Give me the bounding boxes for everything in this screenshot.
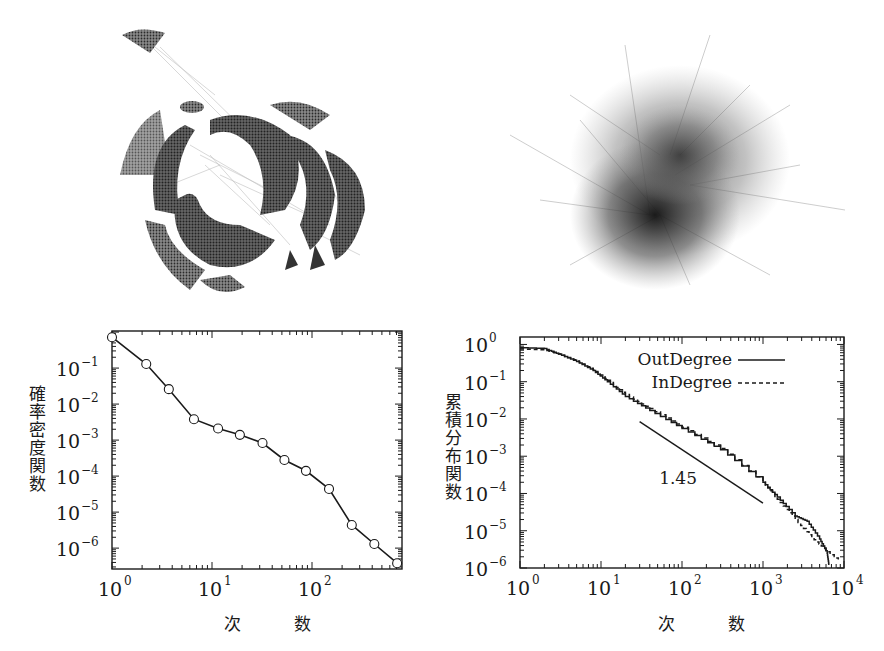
data-point-marker: [108, 333, 117, 342]
x-tick-exponent: 2: [694, 573, 702, 587]
x-tick-label: 10: [98, 578, 122, 600]
data-point-marker: [214, 424, 223, 433]
y-tick-exponent: −4: [489, 480, 507, 494]
data-point-marker: [325, 484, 334, 493]
plot-frame: [112, 331, 402, 569]
left-chart-xlabel: 次 数: [224, 610, 329, 635]
x-tick-label: 10: [587, 577, 611, 599]
y-tick-label: 10: [464, 446, 488, 468]
x-tick-exponent: 3: [775, 573, 783, 587]
network-graph-left: [110, 25, 400, 300]
x-tick-label: 10: [298, 578, 322, 600]
data-point-marker: [142, 359, 151, 368]
y-tick-exponent: −1: [489, 369, 507, 383]
data-point-marker: [258, 439, 267, 448]
x-tick-label: 10: [830, 577, 854, 599]
network-graph-right: [510, 25, 850, 300]
x-tick-exponent: 4: [856, 573, 864, 587]
x-tick-label: 10: [506, 577, 530, 599]
y-tick-label: 10: [464, 409, 488, 431]
slope-annotation: 1.45: [659, 468, 697, 488]
data-point-marker: [164, 385, 173, 394]
y-tick-label: 10: [464, 334, 488, 356]
y-tick-label: 10: [56, 466, 80, 488]
y-tick-exponent: 0: [489, 331, 497, 345]
data-point-marker: [280, 456, 289, 465]
pdf-chart: 10010110210−110−210−310−410−510−6: [40, 320, 420, 600]
right-chart-xlabel: 次 数: [658, 610, 763, 635]
y-tick-label: 10: [56, 358, 80, 380]
y-tick-label: 10: [464, 558, 488, 580]
x-tick-exponent: 1: [613, 573, 621, 587]
data-point-marker: [370, 540, 379, 549]
y-tick-exponent: −3: [81, 427, 99, 441]
y-tick-exponent: −1: [81, 355, 99, 369]
data-point-marker: [189, 415, 198, 424]
data-point-marker: [347, 520, 356, 529]
y-tick-exponent: −2: [489, 406, 507, 420]
x-tick-exponent: 0: [124, 574, 132, 588]
y-tick-exponent: −5: [81, 499, 99, 513]
y-tick-exponent: −6: [489, 555, 507, 569]
x-tick-exponent: 1: [224, 574, 232, 588]
y-tick-label: 10: [464, 483, 488, 505]
y-tick-exponent: −4: [81, 463, 99, 477]
y-tick-label: 10: [56, 502, 80, 524]
y-tick-exponent: −6: [81, 535, 99, 549]
y-tick-label: 10: [56, 430, 80, 452]
legend-indegree-label: InDegree: [652, 372, 732, 392]
legend-outdegree-label: OutDegree: [637, 349, 732, 369]
cdf-chart: 10010110210310410010−110−210−310−410−510…: [455, 320, 884, 600]
y-tick-label: 10: [464, 521, 488, 543]
x-tick-label: 10: [198, 578, 222, 600]
x-tick-label: 10: [749, 577, 773, 599]
y-tick-label: 10: [56, 538, 80, 560]
y-tick-exponent: −2: [81, 391, 99, 405]
y-tick-exponent: −3: [489, 443, 507, 457]
data-point-marker: [301, 466, 310, 475]
x-tick-exponent: 0: [532, 573, 540, 587]
y-tick-label: 10: [56, 394, 80, 416]
data-point-marker: [393, 559, 402, 568]
y-tick-label: 10: [464, 372, 488, 394]
x-tick-exponent: 2: [324, 574, 332, 588]
data-point-marker: [235, 430, 244, 439]
y-tick-exponent: −5: [489, 518, 507, 532]
x-tick-label: 10: [668, 577, 692, 599]
